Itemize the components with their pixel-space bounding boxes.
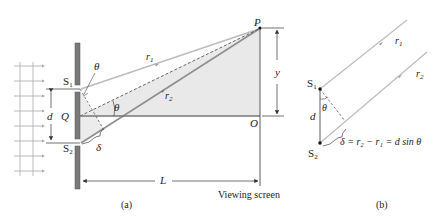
label-O: O xyxy=(250,117,258,129)
point-S2-b xyxy=(318,141,321,144)
label-r2-b: r2 xyxy=(416,68,424,81)
caption-b: (b) xyxy=(376,199,388,211)
label-S2-a: S2 xyxy=(63,142,73,156)
label-equation: δ = r₂ − r₁ = d sin θ xyxy=(340,136,421,147)
label-theta-b: θ xyxy=(322,102,327,113)
label-Q: Q xyxy=(61,110,69,122)
ray-r2-b xyxy=(320,52,427,143)
y-dimension xyxy=(262,28,284,116)
figure-canvas: S1 S2 θ θ d Q δ r1 r2 P y O L Viewing sc… xyxy=(0,0,439,218)
incident-wavefronts xyxy=(14,62,45,176)
label-r1-a: r1 xyxy=(146,51,153,64)
label-d-a: d xyxy=(47,110,53,122)
label-theta-mid: θ xyxy=(114,101,120,113)
panel-b: S1 S2 θ d r1 r2 δ = r₂ − r₁ = d sin θ (b… xyxy=(307,20,427,211)
label-d-b: d xyxy=(310,110,316,122)
label-delta: δ xyxy=(96,141,102,153)
label-S1-b: S1 xyxy=(307,77,317,91)
label-L: L xyxy=(159,174,166,186)
caption-a: (a) xyxy=(121,199,132,211)
label-r1-b: r1 xyxy=(395,35,402,48)
label-y: y xyxy=(274,66,280,78)
label-theta-top: θ xyxy=(94,60,100,72)
ray-r1-b xyxy=(320,20,407,89)
panel-a: S1 S2 θ θ d Q δ r1 r2 P y O L Viewing sc… xyxy=(14,16,284,211)
double-slit-figure: S1 S2 θ θ d Q δ r1 r2 P y O L Viewing sc… xyxy=(0,0,439,218)
label-viewing-screen: Viewing screen xyxy=(218,189,280,200)
label-S1-a: S1 xyxy=(63,75,73,89)
label-P: P xyxy=(253,16,261,28)
point-S1-b xyxy=(318,87,321,90)
label-S2-b: S2 xyxy=(308,147,318,161)
